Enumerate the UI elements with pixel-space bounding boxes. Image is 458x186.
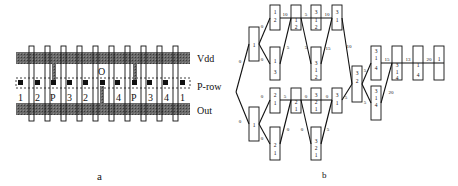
search-graph-diagram: 1 12 12 312 31 13 312 1 21 21 321 31 21 … (230, 0, 458, 186)
contacts (18, 80, 185, 85)
svg-text:1: 1 (295, 17, 298, 23)
svg-text:1: 1 (438, 56, 441, 62)
out-label: Out (197, 105, 212, 116)
svg-text:5: 5 (327, 127, 330, 132)
svg-text:1: 1 (315, 106, 318, 112)
column-label: 3 (148, 92, 153, 103)
svg-text:0: 0 (305, 94, 308, 99)
svg-text:0: 0 (287, 127, 290, 132)
svg-text:1: 1 (253, 42, 256, 48)
column-label: P (131, 92, 137, 103)
svg-text:5: 5 (284, 94, 287, 99)
out-rail (16, 103, 190, 115)
column-label: 4 (164, 92, 169, 103)
svg-text:4: 4 (375, 65, 378, 71)
svg-text:0: 0 (261, 24, 264, 29)
svg-text:1: 1 (253, 122, 256, 128)
vdd-strap-2 (133, 64, 137, 80)
svg-text:3: 3 (336, 9, 339, 15)
svg-text:3: 3 (396, 62, 399, 68)
svg-text:3: 3 (375, 88, 378, 94)
svg-text:1: 1 (295, 106, 298, 112)
graph-edges (236, 18, 444, 144)
svg-text:1: 1 (417, 62, 420, 68)
node-labels: 1 12 12 312 31 13 312 1 21 21 321 31 21 … (253, 9, 441, 158)
svg-text:5: 5 (287, 45, 290, 50)
svg-text:0: 0 (261, 94, 264, 99)
svg-text:2: 2 (315, 145, 318, 151)
svg-text:3: 3 (336, 92, 339, 98)
svg-text:3: 3 (315, 9, 318, 15)
svg-text:5: 5 (305, 12, 308, 17)
svg-text:20: 20 (427, 57, 433, 62)
svg-text:2: 2 (315, 24, 318, 30)
svg-text:1: 1 (315, 67, 318, 73)
svg-text:4: 4 (375, 102, 378, 108)
svg-text:2: 2 (295, 24, 298, 30)
svg-text:5: 5 (345, 95, 348, 100)
svg-text:1: 1 (375, 95, 378, 101)
column-label: P (50, 92, 56, 103)
svg-text:2: 2 (295, 99, 298, 105)
svg-text:1: 1 (274, 9, 277, 15)
svg-text:1: 1 (336, 100, 339, 106)
vdd-label: Vdd (197, 53, 214, 64)
svg-text:3: 3 (375, 48, 378, 54)
svg-text:4: 4 (396, 75, 399, 81)
svg-text:0: 0 (261, 57, 264, 62)
svg-text:0: 0 (239, 119, 242, 124)
svg-text:3: 3 (315, 92, 318, 98)
svg-text:1: 1 (315, 17, 318, 23)
svg-text:20: 20 (389, 90, 395, 95)
column-label: 4 (116, 92, 121, 103)
svg-text:4: 4 (417, 72, 420, 78)
svg-text:1: 1 (336, 17, 339, 23)
svg-text:3: 3 (356, 70, 359, 76)
vdd-rail (16, 52, 190, 64)
svg-text:1: 1 (274, 58, 277, 64)
cell-layout-diagram (0, 0, 230, 160)
svg-text:5: 5 (364, 100, 367, 105)
svg-text:2: 2 (274, 142, 277, 148)
column-label: 2 (83, 92, 88, 103)
column-label: 3 (67, 92, 72, 103)
svg-text:0: 0 (326, 94, 329, 99)
vdd-strap-1 (52, 64, 56, 80)
column-labels: 1 2 P 3 2 4 P 3 4 1 (0, 92, 200, 104)
edge-labels: 0 0 0 10 5 5 5 10 15 10 0 0 0 5 0 0 0 0 … (239, 12, 432, 141)
graph-nodes (249, 5, 444, 160)
p-row-label: P-row (197, 81, 221, 92)
output-marker: O (98, 66, 105, 77)
svg-text:2: 2 (315, 74, 318, 80)
svg-text:3: 3 (274, 69, 277, 75)
svg-text:2: 2 (274, 17, 277, 23)
svg-text:1: 1 (274, 150, 277, 156)
svg-text:0: 0 (261, 136, 264, 141)
svg-text:0: 0 (239, 59, 242, 64)
svg-text:2: 2 (315, 99, 318, 105)
panel-a-cell-layout: 1 2 P 3 2 4 P 3 4 1 O Vdd P-row Out a (0, 0, 230, 186)
svg-text:2: 2 (356, 78, 359, 84)
svg-text:15: 15 (326, 46, 332, 51)
svg-text:5: 5 (364, 68, 367, 73)
svg-text:0: 0 (301, 127, 304, 132)
svg-text:3: 3 (315, 138, 318, 144)
column-label: 1 (180, 92, 185, 103)
caption-b: b (322, 170, 327, 180)
svg-text:1: 1 (274, 100, 277, 106)
column-label: 1 (18, 92, 23, 103)
svg-text:10: 10 (347, 44, 353, 49)
svg-text:10: 10 (325, 12, 331, 17)
svg-text:13: 13 (406, 57, 412, 62)
column-label: 2 (35, 92, 40, 103)
caption-a: a (97, 170, 102, 182)
panel-b-search-graph: 1 12 12 312 31 13 312 1 21 21 321 31 21 … (230, 0, 458, 186)
svg-text:1: 1 (315, 152, 318, 158)
svg-text:1: 1 (375, 55, 378, 61)
svg-text:10: 10 (283, 12, 289, 17)
svg-text:15: 15 (385, 57, 391, 62)
svg-text:3: 3 (315, 60, 318, 66)
svg-text:2: 2 (274, 92, 277, 98)
